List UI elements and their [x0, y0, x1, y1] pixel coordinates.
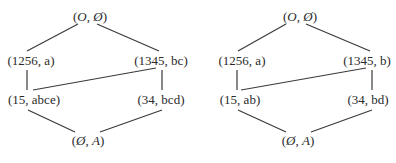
node-top: (O, Ø) — [73, 9, 107, 24]
lattice-left: (O, Ø) (1256, a) (1345, bc) (15, abce) (… — [8, 9, 188, 148]
edge-15-bottom — [238, 110, 286, 132]
edge-1345-15 — [241, 68, 366, 90]
node-15-ab: (15, ab) — [220, 92, 260, 107]
lattice-right: (O, Ø) (1256, a) (1345, b) (15, ab) (34,… — [219, 9, 391, 148]
node-1256-a: (1256, a) — [219, 53, 266, 68]
node-1345-b: (1345, b) — [343, 53, 391, 68]
node-top: (O, Ø) — [283, 9, 317, 24]
edge-top-1345 — [306, 24, 370, 51]
concept-lattice-figure: (O, Ø) (1256, a) (1345, bc) (15, abce) (… — [0, 0, 396, 163]
edge-1345-15 — [33, 68, 156, 90]
node-34-bd: (34, bd) — [347, 92, 388, 107]
edge-34-bottom — [311, 110, 372, 132]
edge-top-1256 — [238, 24, 286, 51]
edge-top-1256 — [27, 24, 78, 51]
edge-top-1345 — [97, 24, 159, 51]
node-bottom: (Ø, A) — [72, 133, 105, 148]
edge-15-bottom — [28, 110, 75, 132]
node-bottom: (Ø, A) — [282, 133, 315, 148]
node-34-bcd: (34, bcd) — [138, 92, 185, 107]
node-1345-bc: (1345, bc) — [134, 53, 187, 68]
node-1256-a: (1256, a) — [8, 53, 55, 68]
node-15-abce: (15, abce) — [8, 92, 60, 107]
edge-34-bottom — [100, 110, 162, 132]
